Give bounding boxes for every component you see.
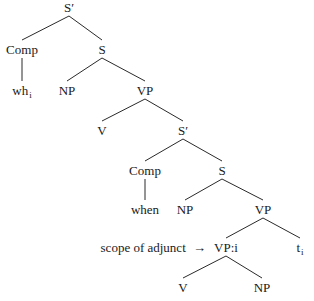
tree-node-v1: V xyxy=(97,123,107,138)
node-label: S′ xyxy=(178,123,188,138)
tree-edge-vpi-np3 xyxy=(226,256,262,278)
node-label: S xyxy=(98,42,105,57)
tree-edge-s2-vp2 xyxy=(222,179,263,200)
tree-edges xyxy=(22,16,300,278)
tree-node-v2: V xyxy=(178,280,188,295)
tree-edge-s2-np2 xyxy=(185,179,222,200)
node-label: S′ xyxy=(64,0,74,15)
tree-node-sbar1: S′ xyxy=(64,0,74,15)
tree-edge-sbar1-s1 xyxy=(69,16,102,40)
node-label: wh xyxy=(12,83,28,98)
tree-edge-sbar1-comp1 xyxy=(22,16,69,40)
node-label: VP:i xyxy=(214,240,238,255)
node-label: t xyxy=(296,240,300,255)
node-label: NP xyxy=(254,280,271,295)
scope-of-adjunct-annotation: scope of adjunct → xyxy=(101,240,206,255)
tree-edge-s1-vp1 xyxy=(102,58,145,81)
node-subscript: i xyxy=(29,90,32,100)
tree-node-when: when xyxy=(131,202,160,217)
tree-node-s1: S xyxy=(98,42,105,57)
node-label: S xyxy=(218,163,225,178)
tree-node-vpi: VP:i xyxy=(214,240,238,255)
node-label: NP xyxy=(177,202,194,217)
tree-node-sbar2: S′ xyxy=(178,123,188,138)
tree-edge-vp1-sbar2 xyxy=(145,99,183,121)
node-label: Comp xyxy=(6,42,38,57)
annotation-text: scope of adjunct xyxy=(101,240,187,255)
node-label: V xyxy=(97,123,107,138)
tree-edge-vpi-v2 xyxy=(183,256,226,278)
tree-node-np1: NP xyxy=(59,83,76,98)
tree-node-trace: ti xyxy=(296,240,304,257)
node-label: when xyxy=(131,202,160,217)
tree-edge-vp2-trace xyxy=(263,218,300,238)
tree-edge-vp2-vpi xyxy=(226,218,263,238)
node-label: VP xyxy=(137,83,154,98)
tree-node-comp1: Comp xyxy=(6,42,38,57)
tree-node-s2: S xyxy=(218,163,225,178)
node-label: NP xyxy=(59,83,76,98)
tree-edge-sbar2-comp2 xyxy=(145,139,183,161)
tree-node-comp2: Comp xyxy=(129,163,161,178)
node-label: Comp xyxy=(129,163,161,178)
tree-node-np2: NP xyxy=(177,202,194,217)
tree-node-vp2: VP xyxy=(255,202,272,217)
syntax-tree-diagram: S′CompwhiSNPVPVS′CompwhenSNPVPVP:itiVNP … xyxy=(0,0,314,301)
tree-node-vp1: VP xyxy=(137,83,154,98)
tree-edge-vp1-v1 xyxy=(102,99,145,121)
tree-node-np3: NP xyxy=(254,280,271,295)
node-label: V xyxy=(178,280,188,295)
tree-edge-s1-np1 xyxy=(67,58,102,81)
tree-edge-sbar2-s2 xyxy=(183,139,222,161)
tree-node-wh: whi xyxy=(12,83,32,100)
node-label: VP xyxy=(255,202,272,217)
right-arrow-icon: → xyxy=(193,240,206,255)
node-subscript: i xyxy=(301,247,304,257)
